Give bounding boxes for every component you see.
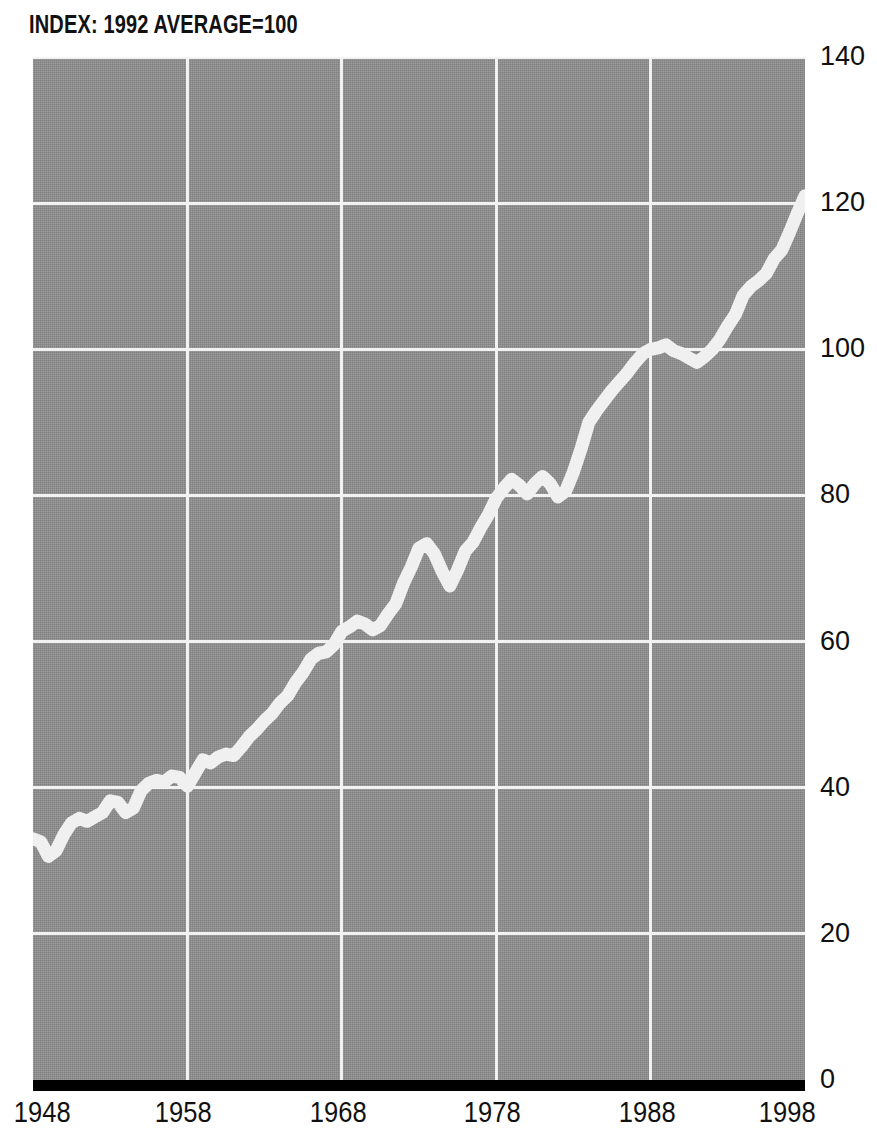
y-axis-tick-label: 20 [820, 920, 850, 947]
chart-figure: INDEX: 1992 AVERAGE=100 0204060801001201… [0, 0, 877, 1146]
series-line-chart [33, 57, 805, 1080]
x-axis-tick-label: 1948 [14, 1098, 71, 1127]
x-axis-tick-label: 1998 [759, 1098, 816, 1127]
y-axis-tick-label: 0 [820, 1066, 835, 1093]
y-axis-tick-label: 140 [820, 43, 865, 70]
x-axis-tick-label: 1988 [618, 1098, 675, 1127]
page-title: INDEX: 1992 AVERAGE=100 [29, 10, 298, 39]
y-axis-tick-label: 60 [820, 628, 850, 655]
x-axis-tick-label: 1968 [310, 1098, 367, 1127]
series-line [33, 196, 805, 857]
y-axis-tick-label: 40 [820, 774, 850, 801]
y-axis-tick-label: 100 [820, 335, 865, 362]
plot-area [33, 57, 805, 1080]
y-axis-tick-label: 120 [820, 189, 865, 216]
x-axis-bar [33, 1080, 805, 1091]
x-axis-tick-label: 1958 [155, 1098, 212, 1127]
y-axis-tick-label: 80 [820, 481, 850, 508]
x-axis-tick-label: 1978 [464, 1098, 521, 1127]
